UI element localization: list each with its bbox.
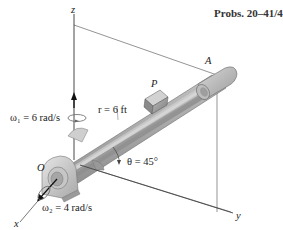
figure-title: Probs. 20–41/42 xyxy=(214,8,283,19)
theta-label: θ = 45° xyxy=(127,157,158,168)
y-axis xyxy=(80,165,233,213)
x-axis-label: x xyxy=(14,219,19,230)
radius-label: r = 6 ft xyxy=(98,105,127,116)
omega2-label: ω₂ = 4 rad/s xyxy=(42,203,92,214)
diagram-canvas: Probs. 20–41/42 z y x A P O r = 6 ft ω₁ … xyxy=(0,0,283,230)
omega1-label: ω₁ = 6 rad/s xyxy=(10,113,60,124)
point-A-label: A xyxy=(205,56,211,67)
rod-end-cylinder xyxy=(194,67,237,102)
point-P-label: P xyxy=(151,79,157,90)
omega1-arrow-icon xyxy=(68,92,86,123)
z-axis-label: z xyxy=(71,5,75,16)
y-axis-label: y xyxy=(236,211,241,222)
x-axis xyxy=(20,202,37,222)
point-O-label: O xyxy=(37,163,45,174)
